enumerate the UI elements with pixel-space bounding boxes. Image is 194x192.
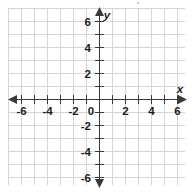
- y-axis-name: y: [103, 9, 111, 21]
- y-axis-label-neg-2: -2: [81, 120, 91, 132]
- scan-speck: [137, 2, 139, 4]
- y-axis-label-pos-2: 2: [85, 68, 91, 80]
- coordinate-plane: -6 -4 -2 0 2 4 6 6 4 2 -2 -4 -6 x y: [0, 0, 194, 192]
- y-axis-label-pos-6: 6: [85, 16, 91, 28]
- y-axis-label-pos-4: 4: [85, 42, 92, 54]
- x-axis-label-neg-2: -2: [68, 105, 78, 117]
- x-axis-label-neg-4: -4: [42, 105, 53, 117]
- coordinate-grid-figure: -6 -4 -2 0 2 4 6 6 4 2 -2 -4 -6 x y: [0, 0, 194, 192]
- origin-label: 0: [88, 105, 94, 117]
- y-axis-down-arrow-icon: [95, 179, 104, 188]
- y-axis-label-neg-4: -4: [81, 146, 92, 158]
- x-axis-name: x: [176, 83, 184, 95]
- x-axis-label-pos-2: 2: [122, 105, 128, 117]
- x-axis-label-neg-6: -6: [16, 105, 26, 117]
- x-axis-right-arrow-icon: [178, 95, 187, 104]
- x-axis-label-pos-6: 6: [174, 105, 180, 117]
- x-axis-left-arrow-icon: [8, 95, 17, 104]
- y-axis-label-neg-6: -6: [81, 172, 91, 184]
- x-axis-label-pos-4: 4: [148, 105, 155, 117]
